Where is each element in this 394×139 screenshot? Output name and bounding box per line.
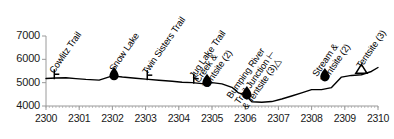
x-axis-tick-label: 2308	[295, 112, 329, 124]
y-axis-tick-label: 4000	[0, 99, 40, 111]
x-axis-tick-label: 2304	[162, 112, 196, 124]
x-axis-tick-label: 2302	[95, 112, 129, 124]
x-axis-tick-label: 2309	[328, 112, 362, 124]
x-axis-tick-label: 2305	[195, 112, 229, 124]
x-axis-tick-label: 2310	[361, 112, 394, 124]
y-axis-tick-label: 5000	[0, 76, 40, 88]
x-axis-tick-label: 2301	[62, 112, 96, 124]
x-axis-tick-label: 2306	[228, 112, 262, 124]
y-axis-tick-label: 7000	[0, 29, 40, 41]
x-axis-tick-label: 2307	[261, 112, 295, 124]
x-axis-tick-label: 2303	[129, 112, 163, 124]
x-axis-tick-label: 2300	[29, 112, 63, 124]
y-axis-tick-label: 6000	[0, 52, 40, 64]
